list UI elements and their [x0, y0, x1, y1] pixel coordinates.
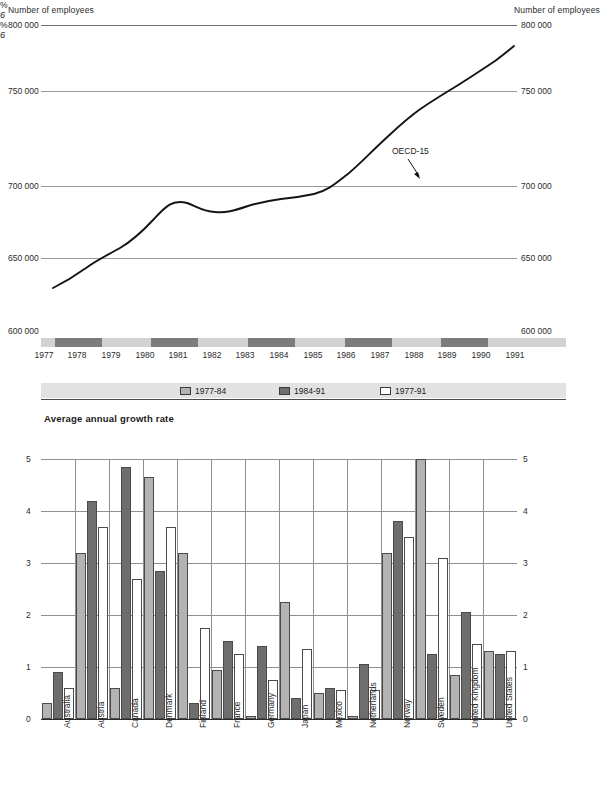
year-band-segment [248, 338, 295, 347]
bar-canada-1984-91[interactable] [121, 467, 131, 719]
bar-ytick-0-left: 0 [26, 714, 31, 724]
bar-xtick-canada: Canada [130, 698, 140, 728]
bar-finland-1977-84[interactable] [178, 553, 188, 719]
bar-group-separator [109, 459, 110, 719]
oecd15-annotation-arrow [0, 0, 608, 372]
bar-france-1977-84[interactable] [212, 670, 222, 719]
bar-ytick-3-left: 3 [26, 558, 31, 568]
line-xtick-1981: 1981 [161, 350, 195, 360]
legend-label: 1984-91 [294, 386, 325, 396]
bar-xtick-austria: Austria [96, 702, 106, 728]
bar-austria-1984-91[interactable] [87, 501, 97, 719]
bar-netherlands-1977-84[interactable] [348, 716, 358, 719]
bar-ytick-4-left: 4 [26, 506, 31, 516]
bar-austria-1977-91[interactable] [98, 527, 108, 719]
bar-xtick-united-kingdom: United Kingdom [470, 668, 480, 728]
line-xtick-1982: 1982 [195, 350, 229, 360]
legend-item-1977-84[interactable]: 1977-84 [180, 383, 226, 398]
bar-sweden-1977-91[interactable] [438, 558, 448, 719]
line-xtick-1990: 1990 [464, 350, 498, 360]
bar-ytick-5-left: 5 [26, 454, 31, 464]
line-xtick-1983: 1983 [228, 350, 262, 360]
bar-xtick-germany: Germany [266, 693, 276, 728]
bar-japan-1977-84[interactable] [280, 602, 290, 719]
bar-mexico-1977-84[interactable] [314, 693, 324, 719]
bar-xtick-japan: Japan [300, 705, 310, 728]
line-xtick-1985: 1985 [296, 350, 330, 360]
line-xtick-1986: 1986 [329, 350, 363, 360]
year-band-segment [55, 338, 102, 347]
bar-ytick-5-right: 5 [523, 454, 528, 464]
year-band [41, 338, 566, 347]
bar-chart-title: Average annual growth rate [44, 413, 174, 424]
line-xtick-1987: 1987 [363, 350, 397, 360]
legend-item-1984-91[interactable]: 1984-91 [279, 383, 325, 398]
bar-group-separator [245, 459, 246, 719]
bar-ytick-1-right: 1 [523, 662, 528, 672]
year-band-segment [441, 338, 488, 347]
bar-xtick-norway: Norway [402, 699, 412, 728]
legend-label: 1977-91 [395, 386, 426, 396]
bar-ytick-0-right: 0 [523, 714, 528, 724]
bar-united-kingdom-1977-84[interactable] [450, 675, 460, 719]
line-xtick-1977: 1977 [27, 350, 61, 360]
bar-xtick-finland: Finland [198, 700, 208, 728]
legend: 1977-84 1984-91 1977-91 [41, 383, 566, 398]
bar-austria-1977-84[interactable] [76, 553, 86, 719]
bar-sweden-1977-84[interactable] [416, 459, 426, 719]
line-xtick-1980: 1980 [128, 350, 162, 360]
bar-group-separator [313, 459, 314, 719]
bar-xtick-sweden: Sweden [436, 697, 446, 728]
bar-canada-1977-84[interactable] [110, 688, 120, 719]
legend-swatch-icon [380, 387, 391, 395]
bar-ytick-2-left: 2 [26, 610, 31, 620]
bar-ytick-4-right: 4 [523, 506, 528, 516]
line-xtick-1989: 1989 [430, 350, 464, 360]
bar-denmark-1977-84[interactable] [144, 477, 154, 719]
bar-xtick-mexico: Mexico [334, 701, 344, 728]
legend-underline [41, 399, 566, 400]
chart-page: Number of employees Number of employees … [0, 0, 608, 787]
bar-norway-1977-84[interactable] [382, 553, 392, 719]
line-chart: Number of employees Number of employees … [0, 0, 608, 372]
legend-item-1977-91[interactable]: 1977-91 [380, 383, 426, 398]
bar-xtick-netherlands: Netherlands [368, 682, 378, 728]
bar-xtick-united-states: United States [504, 677, 514, 728]
bar-australia-1977-84[interactable] [42, 703, 52, 719]
legend-swatch-icon [279, 387, 290, 395]
year-band-segment [345, 338, 392, 347]
bar-chart: 5 4 3 2 1 0 5 4 3 2 1 0 AustraliaAustria… [0, 440, 608, 787]
bar-ytick-1-left: 1 [26, 662, 31, 672]
year-band-segment [151, 338, 198, 347]
bar-norway-1984-91[interactable] [393, 521, 403, 719]
bar-group-separator [347, 459, 348, 719]
bar-united-states-1977-84[interactable] [484, 651, 494, 719]
bar-ytick-3-right: 3 [523, 558, 528, 568]
bar-xtick-australia: Australia [62, 695, 72, 728]
bar-germany-1977-84[interactable] [246, 716, 256, 719]
line-xtick-1984: 1984 [262, 350, 296, 360]
bar-ytick-2-right: 2 [523, 610, 528, 620]
bar-norway-1977-91[interactable] [404, 537, 414, 719]
bar-xtick-denmark: Denmark [164, 694, 174, 728]
legend-swatch-icon [180, 387, 191, 395]
line-xtick-1978: 1978 [60, 350, 94, 360]
line-xtick-1988: 1988 [397, 350, 431, 360]
line-xtick-1991: 1991 [498, 350, 532, 360]
legend-label: 1977-84 [195, 386, 226, 396]
line-xtick-1979: 1979 [94, 350, 128, 360]
bar-denmark-1977-91[interactable] [166, 527, 176, 719]
bar-xtick-france: France [232, 702, 242, 728]
